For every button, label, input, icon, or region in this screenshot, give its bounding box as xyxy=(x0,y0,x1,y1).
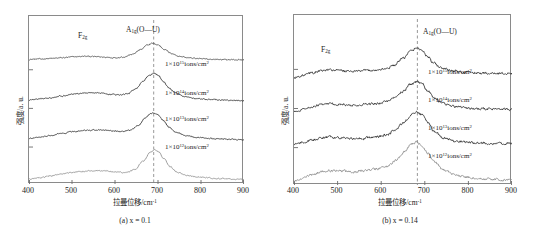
panel-b-plot-svg xyxy=(294,15,512,185)
panel-b-f2g-annotation: F2g xyxy=(321,45,330,54)
panel-b-curve-label-1e12: 1×1012ions/cm2 xyxy=(428,152,472,160)
panel-b-plot-area xyxy=(293,14,511,184)
x-tick-label: 900 xyxy=(237,186,249,195)
x-tick-label: 500 xyxy=(331,186,343,195)
x-tick-label: 600 xyxy=(374,186,386,195)
panel-a-f2g-annotation: F2g xyxy=(78,31,87,40)
panel-b-curve-label-1e14: 1×1014ions/cm2 xyxy=(428,96,472,104)
panel-b-y-axis-label: 强度/a. u. xyxy=(279,96,290,125)
x-tick-label: 700 xyxy=(418,186,430,195)
panel-b-a1g-annotation: A1g(O—U) xyxy=(423,27,457,36)
panel-b-subcaption: (b) x = 0.14 xyxy=(265,216,535,225)
x-tick-label: 500 xyxy=(65,186,77,195)
panel-a-curve-label-1e15: 1×1015ions/cm2 xyxy=(165,60,209,68)
x-tick-label: 800 xyxy=(461,186,473,195)
panel-a-plot-svg xyxy=(29,16,244,184)
x-tick-label: 400 xyxy=(287,186,299,195)
panel-b-curve-label-1e15: 1×1015ions/cm2 xyxy=(428,68,472,76)
panel-a-curve-label-1e13: 1×1013ions/cm2 xyxy=(165,115,209,123)
panel-a-x-axis-label: 拉曼位移/cm-1 xyxy=(0,196,270,207)
panel-a-subcaption: (a) x = 0.1 xyxy=(0,216,270,225)
x-tick-label: 900 xyxy=(505,186,517,195)
panel-b-curve-label-1e13: 1×1013ions/cm2 xyxy=(428,124,472,132)
panel-b-x-axis-label: 拉曼位移/cm-1 xyxy=(265,196,535,207)
x-tick-label: 800 xyxy=(194,186,206,195)
x-tick-label: 600 xyxy=(108,186,120,195)
raman-spectra-figure: 强度/a. u. 400500600700800900 拉曼位移/cm-1 (a… xyxy=(0,0,539,241)
panel-a-curve-label-1e12: 1×1012ions/cm2 xyxy=(165,143,209,151)
panel-a: 强度/a. u. 400500600700800900 拉曼位移/cm-1 (a… xyxy=(0,0,270,241)
x-tick-label: 400 xyxy=(22,186,34,195)
panel-b: 强度/a. u. 400500600700800900 拉曼位移/cm-1 (b… xyxy=(265,0,535,241)
panel-a-plot-area xyxy=(28,15,243,183)
panel-a-curve-label-1e14: 1×1014ions/cm2 xyxy=(165,89,209,97)
x-tick-label: 700 xyxy=(151,186,163,195)
panel-a-y-axis-label: 强度/a. u. xyxy=(14,96,25,125)
panel-a-a1g-annotation: A1g(O—U) xyxy=(126,25,160,34)
